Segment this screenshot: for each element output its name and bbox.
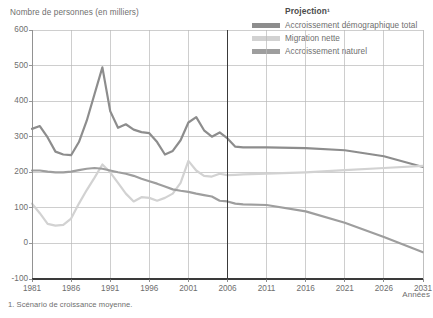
population-growth-chart: Nombre de personnes (en milliers) Projec… xyxy=(0,0,433,318)
x-axis-title: Années xyxy=(402,290,430,299)
axis-frame xyxy=(29,30,423,282)
x-tick-2011: 2011 xyxy=(250,284,284,293)
y-tick--100: -100 xyxy=(2,274,28,283)
y-tick-200: 200 xyxy=(2,167,28,176)
y-tick-600: 600 xyxy=(2,25,28,34)
y-tick-100: 100 xyxy=(2,203,28,212)
x-tick-2026: 2026 xyxy=(367,284,401,293)
plot-area xyxy=(0,0,433,318)
chart-footnote: 1. Scénario de croissance moyenne. xyxy=(8,300,133,309)
x-tick-1981: 1981 xyxy=(15,284,49,293)
y-tick-500: 500 xyxy=(2,61,28,70)
x-tick-1986: 1986 xyxy=(54,284,88,293)
x-tick-1991: 1991 xyxy=(93,284,127,293)
y-tick-0: 0 xyxy=(2,238,28,247)
y-tick-300: 300 xyxy=(2,132,28,141)
x-tick-1996: 1996 xyxy=(132,284,166,293)
x-tick-2001: 2001 xyxy=(171,284,205,293)
x-tick-2006: 2006 xyxy=(211,284,245,293)
x-tick-2021: 2021 xyxy=(328,284,362,293)
y-tick-400: 400 xyxy=(2,96,28,105)
x-tick-2016: 2016 xyxy=(289,284,323,293)
